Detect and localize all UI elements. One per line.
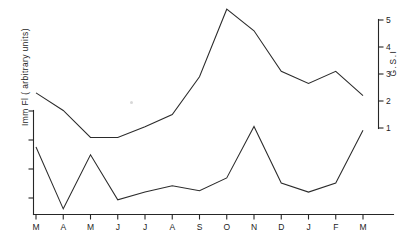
right-axis-ticks [379, 20, 384, 128]
chart-container: MAMJJASONDJFM 12345 Imm Fl ( arbitrary u… [0, 0, 417, 233]
x-axis-tick-label: J [143, 222, 147, 232]
x-axis-tick-label: F [333, 222, 338, 232]
x-axis-tick-labels: MAMJJASONDJFM [32, 222, 366, 232]
right-axis-tick-label: 5 [386, 15, 391, 25]
x-axis-tick-label: N [251, 222, 257, 232]
x-axis-tick-label: A [169, 222, 175, 232]
x-axis-ticks [36, 215, 363, 220]
left-axis-title: Imm Fl ( arbitrary units) [20, 12, 30, 142]
x-axis-tick-label: O [223, 222, 230, 232]
x-axis-tick-label: S [197, 222, 203, 232]
x-axis-tick-label: M [32, 222, 39, 232]
right-axis-tick-label: 1 [386, 123, 391, 133]
series-line-imm-fl [36, 126, 363, 208]
line-chart-plot: MAMJJASONDJFM 12345 [0, 0, 417, 233]
x-axis-tick-label: J [306, 222, 310, 232]
x-axis-tick-label: A [60, 222, 66, 232]
x-axis-tick-label: M [87, 222, 94, 232]
scan-artifact [130, 101, 133, 104]
x-axis-tick-label: M [359, 222, 366, 232]
x-axis-tick-label: D [278, 222, 284, 232]
x-axis-tick-label: J [116, 222, 120, 232]
x-axis: MAMJJASONDJFM [32, 215, 393, 233]
right-axis-tick-label: 2 [386, 96, 391, 106]
series-line-gsi [36, 9, 363, 137]
right-axis-title: G.S.I [388, 39, 398, 87]
